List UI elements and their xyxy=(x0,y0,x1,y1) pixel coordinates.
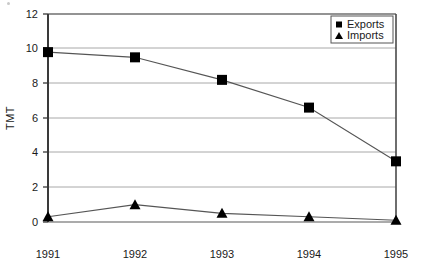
y-tick-label-4: 4 xyxy=(32,146,38,158)
legend: Exports Imports xyxy=(331,16,393,43)
x-tick-label-1994: 1994 xyxy=(297,248,321,260)
y-axis-title: TMT xyxy=(4,106,16,130)
marker-square-1995 xyxy=(391,156,401,166)
legend-marker-square-icon xyxy=(336,22,342,28)
y-tick-label-6: 6 xyxy=(32,112,38,124)
legend-label-imports: Imports xyxy=(347,29,384,41)
marker-square-1994 xyxy=(304,103,314,113)
legend-label-exports: Exports xyxy=(347,18,385,30)
y-tick-label-8: 8 xyxy=(32,77,38,89)
y-tick-label-0: 0 xyxy=(32,216,38,228)
y-tick-label-2: 2 xyxy=(32,181,38,193)
x-tick-label-1991: 1991 xyxy=(36,248,60,260)
line-chart-plot: 12 10 8 6 4 2 0 TMT 1991 1992 1993 1994 … xyxy=(0,0,425,269)
y-tick-label-10: 10 xyxy=(26,42,38,54)
marker-square-1991 xyxy=(43,47,53,57)
marker-square-1992 xyxy=(130,52,140,62)
marker-square-1993 xyxy=(217,75,227,85)
x-tick-label-1992: 1992 xyxy=(123,248,147,260)
x-tick-label-1993: 1993 xyxy=(210,248,234,260)
chart-container: 12 10 8 6 4 2 0 TMT 1991 1992 1993 1994 … xyxy=(0,0,425,269)
y-tick-label-12: 12 xyxy=(26,8,38,20)
x-tick-label-1995: 1995 xyxy=(384,248,408,260)
